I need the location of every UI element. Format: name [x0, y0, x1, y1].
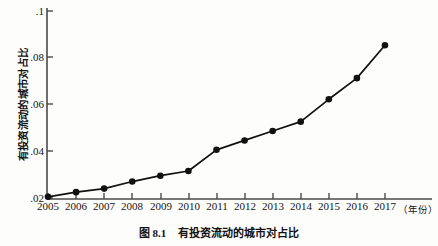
- data-point: [213, 147, 220, 154]
- y-axis-ticks: [47, 11, 53, 198]
- figure-caption-text: 有投资流动的城市对占比: [178, 227, 299, 240]
- figure-caption: 图 8.1有投资流动的城市对占比: [0, 224, 438, 240]
- x-axis-tick-labels: 2005 2006 2007 2008 2009 2010 2011 2012 …: [0, 201, 438, 219]
- data-point: [129, 178, 136, 185]
- data-point: [241, 137, 248, 144]
- data-point: [382, 42, 389, 49]
- x-axis-ticks: [48, 193, 385, 199]
- data-point: [157, 172, 164, 179]
- series-markers: [45, 42, 389, 200]
- data-point: [354, 75, 361, 82]
- series-line: [48, 45, 385, 197]
- figure-caption-number: 图 8.1: [139, 227, 167, 239]
- chart-plot-area: [0, 0, 438, 214]
- data-point: [101, 185, 108, 192]
- data-point: [326, 96, 333, 103]
- data-point: [73, 189, 80, 196]
- data-point: [269, 128, 276, 135]
- figure-container: 有投资流动的城市对占比 .1 .08 .06 .04 .02: [0, 0, 438, 246]
- data-point: [185, 168, 192, 175]
- x-axis-unit-label: （年份）: [398, 202, 438, 216]
- data-point: [297, 118, 304, 125]
